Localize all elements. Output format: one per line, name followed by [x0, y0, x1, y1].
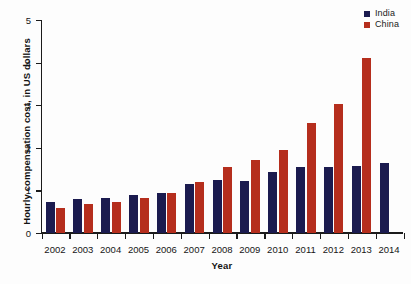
bar-india-2011[interactable] [296, 167, 305, 233]
bar-india-2005[interactable] [129, 195, 138, 233]
x-tick-mark [153, 233, 154, 239]
x-tick-mark [264, 233, 265, 239]
legend-swatch-icon [364, 11, 370, 17]
x-tick-mark [292, 233, 293, 239]
legend-label: China [375, 20, 399, 29]
bar-india-2009[interactable] [240, 181, 249, 233]
bar-group-2008 [211, 20, 239, 233]
y-tick-label: 3 [26, 100, 31, 111]
bar-china-2005[interactable] [140, 198, 149, 233]
bar-india-2007[interactable] [185, 184, 194, 233]
bar-group-2005 [127, 20, 155, 233]
y-tick-mark [36, 233, 41, 234]
y-tick-label: 2 [26, 142, 31, 153]
x-tick-label-2010: 2010 [267, 244, 288, 255]
x-tick-label-2003: 2003 [72, 244, 93, 255]
x-tick-mark [404, 233, 405, 239]
bar-india-2014[interactable] [380, 163, 389, 233]
bar-group-2007 [183, 20, 211, 233]
x-tick-label-2004: 2004 [100, 244, 121, 255]
bar-group-2009 [238, 20, 266, 233]
bar-china-2010[interactable] [279, 150, 288, 233]
x-tick-label-2014: 2014 [378, 244, 399, 255]
y-tick-label: 4 [26, 57, 31, 68]
bar-china-2009[interactable] [251, 160, 260, 233]
x-tick-mark [236, 233, 237, 239]
x-tick-mark [348, 233, 349, 239]
bar-group-2004 [99, 20, 127, 233]
bar-china-2011[interactable] [307, 123, 316, 233]
legend-swatch-icon [364, 22, 370, 28]
bar-group-2014 [378, 20, 406, 233]
x-tick-label-2007: 2007 [184, 244, 205, 255]
x-tick-mark [42, 233, 43, 239]
legend-label: India [375, 9, 395, 18]
bar-group-2002 [44, 20, 72, 233]
x-tick-mark [125, 233, 126, 239]
x-tick-label-2006: 2006 [156, 244, 177, 255]
x-tick-label-2008: 2008 [211, 244, 232, 255]
chart-legend: IndiaChina [364, 9, 399, 29]
bar-china-2012[interactable] [334, 104, 343, 234]
x-tick-mark [181, 233, 182, 239]
legend-entry-china[interactable]: China [364, 20, 399, 29]
x-tick-label-2005: 2005 [128, 244, 149, 255]
bar-series-container [41, 20, 403, 233]
bar-group-2010 [266, 20, 294, 233]
x-tick-label-2011: 2011 [295, 244, 315, 255]
bar-group-2013 [350, 20, 378, 233]
bar-china-2002[interactable] [56, 208, 65, 233]
bar-group-2011 [294, 20, 322, 233]
bar-india-2004[interactable] [101, 198, 110, 233]
y-axis-title: Hourly compensation cost, in US dollars [21, 22, 32, 242]
x-axis-title: Year [41, 260, 403, 271]
bar-chart: IndiaChina Hourly compensation cost, in … [0, 0, 411, 284]
bar-india-2006[interactable] [157, 193, 166, 233]
plot-area: 012345 200220032004200520062007200820092… [41, 20, 403, 233]
bar-china-2008[interactable] [223, 167, 232, 233]
bar-group-2003 [71, 20, 99, 233]
bar-india-2013[interactable] [352, 166, 361, 233]
y-tick-label: 5 [26, 15, 31, 26]
bar-china-2013[interactable] [362, 58, 371, 233]
x-tick-mark [69, 233, 70, 239]
bar-india-2010[interactable] [268, 172, 277, 233]
x-tick-label-2002: 2002 [44, 244, 65, 255]
x-tick-label-2012: 2012 [323, 244, 344, 255]
x-tick-mark [209, 233, 210, 239]
bar-india-2012[interactable] [324, 167, 333, 233]
bar-china-2003[interactable] [84, 204, 93, 233]
y-tick-label: 1 [26, 185, 31, 196]
y-tick-label: 0 [26, 228, 31, 239]
bar-group-2012 [322, 20, 350, 233]
bar-india-2002[interactable] [46, 202, 55, 233]
x-tick-label-2009: 2009 [239, 244, 260, 255]
bar-china-2007[interactable] [195, 182, 204, 233]
legend-entry-india[interactable]: India [364, 9, 399, 18]
bar-india-2003[interactable] [73, 199, 82, 233]
x-tick-mark [376, 233, 377, 239]
bar-china-2006[interactable] [167, 193, 176, 233]
bar-india-2008[interactable] [213, 180, 222, 233]
x-tick-mark [320, 233, 321, 239]
x-tick-label-2013: 2013 [351, 244, 372, 255]
x-tick-mark [97, 233, 98, 239]
bar-china-2004[interactable] [112, 202, 121, 233]
bar-group-2006 [155, 20, 183, 233]
